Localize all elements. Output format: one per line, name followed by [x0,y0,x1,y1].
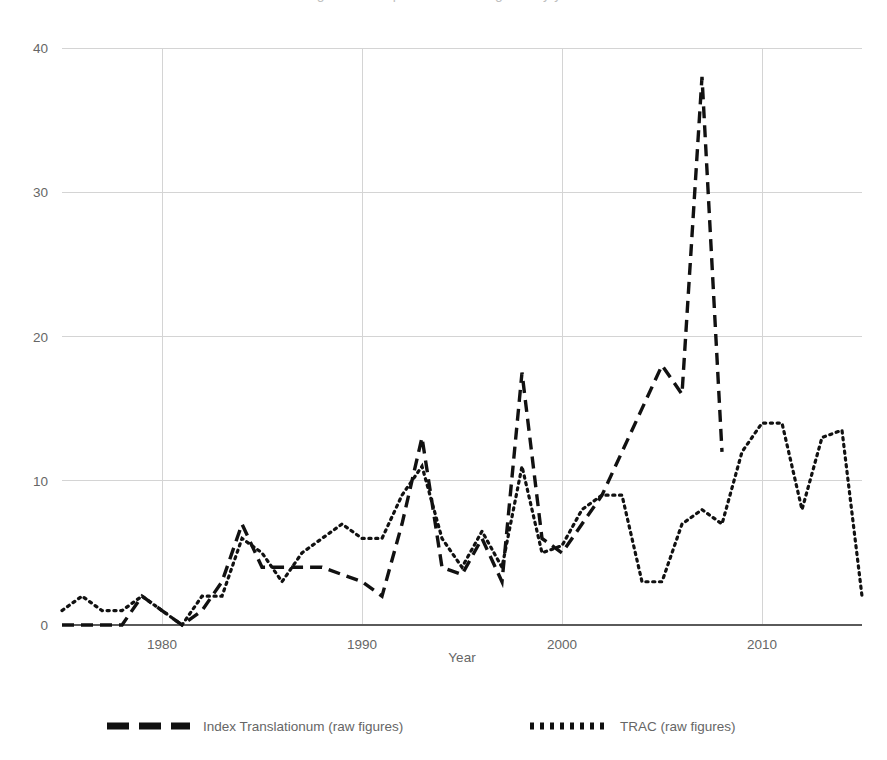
y-axis-tick-label: 0 [40,618,48,633]
y-axis-tick-label: 20 [33,330,48,345]
x-axis-tick-label: 1980 [147,637,177,652]
chart-title-cutoff: Figure 1: comparison of raw figures by y… [0,0,887,2]
gridlines-group [62,48,862,625]
y-tick-labels-group: 010203040 [33,41,48,633]
series-line-index-translationum [62,77,722,625]
line-chart: 010203040 1980199020002010 Year Index Tr… [0,0,887,760]
series-line-trac [62,423,862,625]
x-axis-tick-label: 1990 [347,637,377,652]
chart-legend: Index Translationum (raw figures) TRAC (… [107,719,736,734]
x-axis-tick-label: 2000 [547,637,577,652]
x-axis-label: Year [448,650,476,665]
y-axis-tick-label: 30 [33,185,48,200]
legend-label-trac: TRAC (raw figures) [620,719,736,734]
legend-label-index-translationum: Index Translationum (raw figures) [203,719,403,734]
y-axis-tick-label: 40 [33,41,48,56]
x-axis-tick-label: 2010 [747,637,777,652]
y-axis-tick-label: 10 [33,474,48,489]
series-group [62,77,862,625]
chart-container: Figure 1: comparison of raw figures by y… [0,0,887,760]
